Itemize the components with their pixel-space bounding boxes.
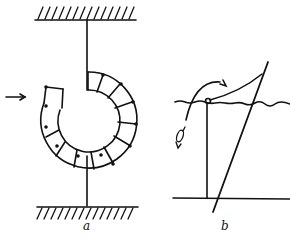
label-a: a [83,219,90,233]
bottom-support [37,207,138,219]
force-arrow-icon [6,94,25,100]
trajectory-arrowhead-icon [220,80,226,86]
diagram-canvas: a b [0,0,290,240]
spiral-spring [41,72,137,169]
fish-icon [175,127,185,148]
ground-line [173,198,290,199]
top-support [35,7,136,20]
label-b: b [221,219,229,233]
fishing-line [210,74,262,100]
